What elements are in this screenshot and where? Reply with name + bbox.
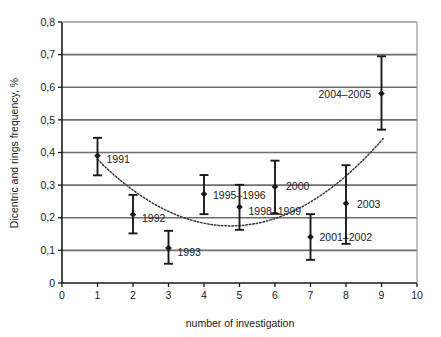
data-point-label: 2001–2002 <box>320 231 373 243</box>
chart-background <box>0 0 441 337</box>
data-point-label: 1993 <box>178 246 202 258</box>
x-tick-label: 2 <box>130 289 136 301</box>
data-point-label: 1995–1996 <box>213 189 266 201</box>
y-tick-label: 0,3 <box>40 179 55 191</box>
x-tick-label: 8 <box>343 289 349 301</box>
y-tick-label: 0,2 <box>40 211 55 223</box>
data-point-label: 1992 <box>142 212 166 224</box>
y-tick-label: 0,4 <box>40 146 55 158</box>
y-tick-label: 0,7 <box>40 48 55 60</box>
y-tick-label: 0 <box>49 277 55 289</box>
x-axis-title: number of investigation <box>186 317 295 329</box>
x-tick-label: 5 <box>237 289 243 301</box>
y-axis-title: Dicentric and rings frequency, % <box>8 78 20 228</box>
data-point-label: 2000 <box>286 180 310 192</box>
y-tick-label: 0,6 <box>40 81 55 93</box>
x-tick-label: 9 <box>379 289 385 301</box>
x-tick-label: 3 <box>166 289 172 301</box>
x-tick-label: 6 <box>272 289 278 301</box>
x-tick-label: 1 <box>95 289 101 301</box>
y-tick-label: 0,8 <box>40 16 55 28</box>
x-tick-label: 0 <box>59 289 65 301</box>
data-point-label: 1998–1999 <box>249 205 302 217</box>
data-point-label: 2004–2005 <box>319 88 372 100</box>
x-tick-label: 10 <box>411 289 423 301</box>
chart-container: 00,10,20,30,40,50,60,70,8 012345678910 1… <box>0 0 441 337</box>
y-tick-label: 0,1 <box>40 244 55 256</box>
x-tick-label: 4 <box>201 289 207 301</box>
data-point-label: 1991 <box>107 153 131 165</box>
x-tick-label: 7 <box>308 289 314 301</box>
dicentric-rings-frequency-scatter-chart: 00,10,20,30,40,50,60,70,8 012345678910 1… <box>0 0 441 337</box>
y-tick-label: 0,5 <box>40 114 55 126</box>
data-point-label: 2003 <box>357 198 381 210</box>
